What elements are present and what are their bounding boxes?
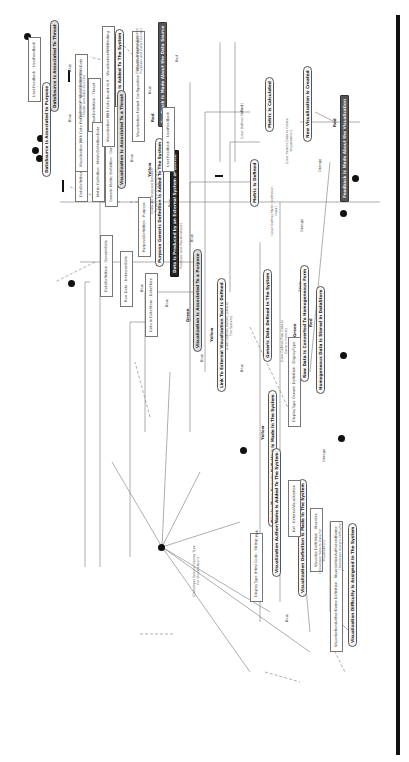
note-datastore[interactable]: Data In DataStore : DataStore	[145, 273, 158, 337]
start-node	[338, 435, 345, 442]
note-user-feedback-visualization[interactable]: User Feedback : UserFeedback	[162, 107, 175, 172]
guard-condition: [User Defines Raw Data to Generic Format…	[280, 315, 288, 367]
guard-condition: [Developer Assigns Difficulty]	[338, 520, 342, 572]
activity-diagram: DataSource Is Associated To Threat Green…	[0, 0, 409, 762]
activity-new-visualization[interactable]: New Visualization Is Created	[303, 66, 312, 142]
note-displaytype-definition[interactable]: DisplayType Generic Definition : Display…	[288, 337, 301, 427]
activity-metric-calculated[interactable]: Metric Is Calculated	[265, 77, 274, 132]
activity-homogeneous-data-stored[interactable]: Homogeneous Data Is Stored In DataStore	[316, 286, 325, 394]
start-node	[68, 280, 75, 287]
guard-condition: [User Defines Metric Definition Data]	[270, 185, 278, 237]
color-tag: Yellow	[209, 328, 214, 342]
edge-label: Blue	[200, 354, 204, 362]
activity-visualization-difficulty[interactable]: Visualization Difficulty Is Assigned In …	[348, 523, 357, 647]
start-node	[240, 447, 247, 454]
color-tag: Red	[150, 113, 155, 122]
activity-visualization-author[interactable]: Visualization Author/Name Is Added To Th…	[272, 448, 281, 577]
guard-condition: [User Defines Metrics]	[240, 95, 244, 147]
guard-condition: [Developer Selects Data For Visualizatio…	[318, 525, 326, 577]
edge-label: Blue	[68, 64, 72, 72]
color-tag: Green	[185, 308, 190, 322]
activity-feedback-visualization[interactable]: Feedback Is Made About the Visualization	[340, 95, 349, 202]
note-external-visualization[interactable]: Ext : ExternalVisualization	[288, 480, 301, 537]
fork-bar	[62, 180, 64, 192]
start-node	[158, 544, 165, 551]
edge-label: Blue	[240, 364, 244, 372]
guard-condition: [Data are Analysed Between Purposes and …	[175, 220, 183, 272]
color-tag: Red	[332, 118, 337, 127]
edge-label: Blue	[148, 86, 152, 94]
color-tag: Red	[308, 318, 313, 327]
edge-label: Blue	[165, 299, 169, 307]
note-user-feedback-datasource[interactable]: User Feedback : UserFeedback	[28, 37, 41, 102]
note-raw-data[interactable]: Raw Data : UnknownData	[120, 251, 133, 307]
guard-condition: [Developer Selects Display Type For Visu…	[192, 545, 200, 597]
edge-label: Blue	[68, 114, 72, 122]
edge-label: Blue	[130, 154, 134, 162]
note-visualization-binding[interactable]: Visualization With Data Bound to It : Vi…	[102, 26, 115, 147]
start-node	[352, 175, 359, 182]
edge-label: Blue	[140, 284, 144, 292]
guard-condition: [User Defines Generic Data to The System…	[225, 300, 233, 352]
guard-condition: [Data are Analysed Between Threats and D…	[78, 70, 86, 122]
activity-visualization-purpose[interactable]: Visualization Is Associated To a Purpose	[193, 249, 202, 352]
color-tag: Yellow	[260, 426, 265, 440]
edge-label: Blue	[190, 234, 194, 242]
activity-datasource-purpose[interactable]: DataSource Is Associated to Purpose	[42, 82, 51, 177]
edge-label: Orange	[318, 159, 322, 172]
activity-visualization-threat[interactable]: Visualization Is Associated To a Threat	[117, 90, 126, 189]
edge-label: Orange	[300, 219, 304, 232]
activity-datasource-threat[interactable]: DataSource Is Associated To Threat	[50, 20, 59, 112]
guard-condition: [Data are Analysed Between Threats and V…	[150, 165, 158, 217]
start-node	[340, 210, 347, 217]
note-data-definition-generic[interactable]: DataDefinition : GenericData	[100, 235, 113, 297]
edge-label: Pink	[255, 530, 259, 537]
start-node	[32, 147, 39, 154]
color-tag: Green	[292, 323, 297, 337]
edge-label: Red	[175, 55, 179, 62]
edge-label: Orange	[322, 449, 326, 462]
guard-condition: [Data are Analysed Between Purposes and …	[135, 25, 143, 77]
guard-condition: [User Selects Data to Create Visualizati…	[285, 115, 293, 167]
note-displaytype-html[interactable]: DisplayType (Html Code : String)	[250, 533, 263, 602]
edge-label: Blue	[168, 199, 172, 207]
edge-label: Green	[298, 281, 302, 292]
activity-metric-defined[interactable]: Metric Is Defined	[250, 159, 259, 207]
fork-bar	[215, 175, 223, 177]
activity-generic-data-defined[interactable]: Generic Data Defined In The System	[263, 269, 272, 362]
edge-label: Blue	[285, 614, 289, 622]
start-node	[340, 352, 347, 359]
